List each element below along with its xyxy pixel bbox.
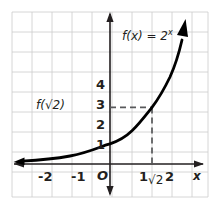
f-of-sqrt2-value-label: f(√2) xyxy=(36,99,65,111)
function-equation-exponent: x xyxy=(168,28,173,37)
y-axis-bottom-arrowhead xyxy=(106,186,113,196)
sqrt2-x-axis-label: √2 xyxy=(148,174,163,186)
exponential-function-figure: -2 -1 O 1 2 x √2 f(√2) f(x) = 2x 1234 xyxy=(0,0,219,208)
x-tick-label-minus-1: -1 xyxy=(71,170,85,183)
x-tick-label-2: 2 xyxy=(165,170,174,183)
x-axis-right-arrowhead xyxy=(194,160,204,167)
x-tick-label-1: 1 xyxy=(139,170,148,183)
x-axis-name-label: x xyxy=(193,170,201,182)
origin-label: O xyxy=(97,169,108,182)
function-equation-label: f(x) = 2x xyxy=(122,29,173,42)
function-equation-base: f(x) = 2 xyxy=(122,29,168,43)
x-axis xyxy=(14,160,204,167)
y-tick-label-1: 1 xyxy=(96,138,105,151)
y-axis-top-arrowhead xyxy=(106,12,113,22)
y-tick-label-2: 2 xyxy=(96,118,105,131)
y-tick-label-4: 4 xyxy=(96,78,105,91)
graph-canvas xyxy=(0,0,219,208)
y-tick-label-3: 3 xyxy=(96,98,105,111)
curve-right-arrowhead xyxy=(177,19,188,37)
x-tick-label-minus-2: -2 xyxy=(38,170,52,183)
